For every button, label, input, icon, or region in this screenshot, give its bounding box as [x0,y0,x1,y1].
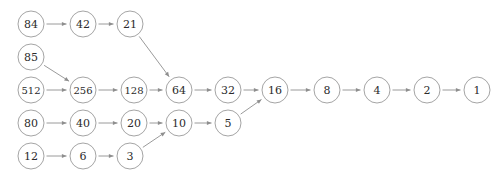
node-label: 12 [24,150,38,163]
node-label: 2 [424,84,431,97]
arrowhead-icon [254,88,259,92]
node-32[interactable]: 32 [215,77,241,103]
edge-4-to-2 [393,88,411,92]
node-8[interactable]: 8 [314,77,340,103]
arrowhead-icon [62,121,67,125]
node-80[interactable]: 80 [18,110,44,136]
node-label: 5 [225,117,232,130]
node-label: 10 [172,117,186,130]
node-label: 16 [268,84,282,97]
edge-16-to-8 [291,88,311,92]
arrowhead-icon [62,22,67,26]
node-label: 64 [172,84,186,97]
edge-21-to-64 [139,36,169,76]
edge-32-to-16 [244,88,259,92]
node-5[interactable]: 5 [215,110,241,136]
edge-128-to-64 [150,88,163,92]
edge-3-to-10 [143,132,165,147]
edge-84-to-42 [47,22,67,26]
edge-20-to-10 [150,121,163,125]
arrowhead-icon [207,121,212,125]
node-label: 128 [124,85,143,96]
arrowhead-icon [64,77,69,81]
graph-svg: 8442218551225612864321684218040201051263 [0,0,503,177]
arrowhead-icon [356,88,361,92]
arrowhead-icon [62,154,67,158]
node-label: 4 [374,84,381,97]
node-12[interactable]: 12 [18,143,44,169]
node-label: 32 [221,84,235,97]
edge-layer [44,22,460,158]
diagram-canvas: 8442218551225612864321684218040201051263 [0,0,503,177]
node-label: 256 [73,85,92,96]
node-4[interactable]: 4 [364,77,390,103]
edge-42-to-21 [99,22,114,26]
arrowhead-icon [109,154,114,158]
node-label: 1 [474,84,481,97]
edge-40-to-20 [99,121,118,125]
arrowhead-icon [207,88,212,92]
arrowhead-icon [113,121,118,125]
node-label: 40 [76,117,90,130]
arrowhead-icon [113,88,118,92]
node-6[interactable]: 6 [70,143,96,169]
node-label: 42 [76,18,90,31]
node-42[interactable]: 42 [70,11,96,37]
node-64[interactable]: 64 [166,77,192,103]
node-1[interactable]: 1 [464,77,490,103]
edge-85-to-256 [44,65,69,81]
arrowhead-icon [456,88,461,92]
arrowhead-icon [158,121,163,125]
node-label: 8 [324,84,331,97]
node-20[interactable]: 20 [121,110,147,136]
arrowhead-icon [306,88,311,92]
node-128[interactable]: 128 [121,77,147,103]
edge-80-to-40 [47,121,67,125]
arrowhead-icon [109,22,114,26]
node-10[interactable]: 10 [166,110,192,136]
edge-64-to-32 [195,88,212,92]
edge-5-to-16 [241,99,262,114]
node-label: 3 [127,150,134,163]
edge-2-to-1 [443,88,461,92]
node-21[interactable]: 21 [117,11,143,37]
node-2[interactable]: 2 [414,77,440,103]
arrowhead-icon [165,72,169,77]
node-label: 84 [24,18,38,31]
node-84[interactable]: 84 [18,11,44,37]
node-512[interactable]: 512 [18,77,44,103]
node-85[interactable]: 85 [18,44,44,70]
node-label: 85 [24,51,38,64]
node-256[interactable]: 256 [70,77,96,103]
edge-512-to-256 [47,88,67,92]
node-label: 512 [21,85,40,96]
edge-8-to-4 [343,88,361,92]
edge-10-to-5 [195,121,212,125]
edge-6-to-3 [99,154,114,158]
node-3[interactable]: 3 [117,143,143,169]
arrowhead-icon [62,88,67,92]
arrowhead-icon [406,88,411,92]
node-label: 6 [80,150,87,163]
node-label: 20 [127,117,141,130]
edge-256-to-128 [99,88,118,92]
arrowhead-icon [158,88,163,92]
arrowhead-icon [160,132,165,136]
node-16[interactable]: 16 [262,77,288,103]
edge-line [139,36,169,76]
node-label: 21 [123,18,137,31]
node-40[interactable]: 40 [70,110,96,136]
arrowhead-icon [257,99,262,103]
edge-12-to-6 [47,154,67,158]
node-label: 80 [24,117,38,130]
